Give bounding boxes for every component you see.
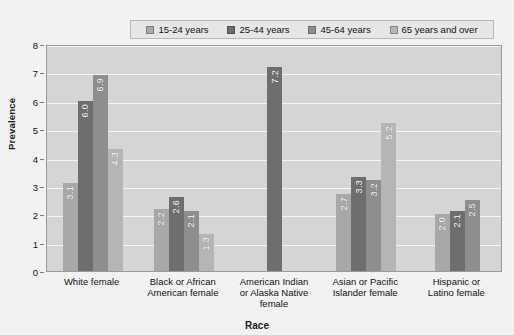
bar[interactable]: 6.0 xyxy=(78,101,93,271)
legend-swatch-icon xyxy=(308,26,316,34)
bar-value-label: 1.3 xyxy=(201,237,211,250)
bar[interactable]: 2.0 xyxy=(435,214,450,271)
bar-value-label: 2.1 xyxy=(452,214,462,227)
bar[interactable]: 3.1 xyxy=(63,183,78,271)
y-tick-mark xyxy=(40,102,44,103)
chart-legend: 15-24 years25-44 years45-64 years65 year… xyxy=(130,20,494,39)
x-category-label: Asian or PacificIslander female xyxy=(320,276,411,298)
bar[interactable]: 2.6 xyxy=(169,197,184,271)
x-axis-category-labels: White femaleBlack or AfricanAmerican fem… xyxy=(46,276,502,320)
bar[interactable]: 2.7 xyxy=(336,194,351,271)
bar[interactable]: 2.2 xyxy=(154,209,169,271)
y-tick-mark xyxy=(40,45,44,46)
x-category-label: Hispanic orLatino female xyxy=(411,276,502,298)
bar[interactable]: 3.2 xyxy=(366,180,381,271)
bar-value-label: 6.0 xyxy=(80,104,90,117)
bar-groups: 3.16.06.94.32.22.62.11.37.22.73.33.25.22… xyxy=(47,46,501,271)
bar-group: 3.16.06.94.3 xyxy=(47,46,138,271)
bar[interactable]: 2.1 xyxy=(184,211,199,271)
y-tick-label: 6 xyxy=(33,96,38,107)
y-tick-label: 1 xyxy=(33,238,38,249)
bar-value-label: 4.3 xyxy=(110,152,120,165)
y-tick-label: 4 xyxy=(33,153,38,164)
bar-value-label: 2.7 xyxy=(339,197,349,210)
x-category-label: Black or AfricanAmerican female xyxy=(137,276,228,298)
legend-item-2[interactable]: 45-64 years xyxy=(308,24,370,35)
bar-value-label: 3.1 xyxy=(65,186,75,199)
bar[interactable]: 2.5 xyxy=(465,200,480,271)
legend-item-1[interactable]: 25-44 years xyxy=(227,24,289,35)
legend-item-0[interactable]: 15-24 years xyxy=(146,24,208,35)
bar[interactable]: 1.3 xyxy=(199,234,214,271)
y-tick-label: 8 xyxy=(33,40,38,51)
bar-value-label: 6.9 xyxy=(95,78,105,91)
x-category-label: White female xyxy=(46,276,137,287)
y-tick-label: 7 xyxy=(33,68,38,79)
legend-swatch-icon xyxy=(390,26,398,34)
y-tick-label: 0 xyxy=(33,267,38,278)
bar-value-label: 3.2 xyxy=(369,183,379,196)
legend-swatch-icon xyxy=(146,26,154,34)
bar-value-label: 2.2 xyxy=(156,212,166,225)
y-tick-mark xyxy=(40,130,44,131)
bar[interactable]: 5.2 xyxy=(381,123,396,271)
bar-value-label: 3.3 xyxy=(354,180,364,193)
bar[interactable]: 6.9 xyxy=(93,75,108,271)
bar-group: 2.02.12.5 xyxy=(412,46,503,271)
bar-value-label: 7.2 xyxy=(270,70,280,83)
bar[interactable]: 2.1 xyxy=(450,211,465,271)
bar-value-label: 2.1 xyxy=(186,214,196,227)
bar-group: 7.2 xyxy=(229,46,320,271)
y-tick-mark xyxy=(40,159,44,160)
y-tick-label: 2 xyxy=(33,210,38,221)
y-tick-mark xyxy=(40,215,44,216)
legend-item-label: 65 years and over xyxy=(402,24,478,35)
bar[interactable]: 3.3 xyxy=(351,177,366,271)
bar-value-label: 2.5 xyxy=(467,203,477,216)
bar-group: 2.22.62.11.3 xyxy=(138,46,229,271)
y-tick-mark xyxy=(40,73,44,74)
legend-swatch-icon xyxy=(227,26,235,34)
prevalence-bar-chart: 15-24 years25-44 years45-64 years65 year… xyxy=(0,0,514,335)
bar-value-label: 2.0 xyxy=(437,217,447,230)
legend-item-label: 45-64 years xyxy=(320,24,370,35)
y-tick-mark xyxy=(40,272,44,273)
y-tick-label: 3 xyxy=(33,181,38,192)
bar-group: 2.73.33.25.2 xyxy=(321,46,412,271)
legend-item-label: 25-44 years xyxy=(239,24,289,35)
y-tick-label: 5 xyxy=(33,125,38,136)
bar[interactable]: 7.2 xyxy=(267,67,282,271)
legend-item-3[interactable]: 65 years and over xyxy=(390,24,478,35)
y-axis-ticks: 012345678 xyxy=(0,45,44,272)
x-category-label: American Indianor Alaska Nativefemale xyxy=(228,276,319,309)
plot-area: 3.16.06.94.32.22.62.11.37.22.73.33.25.22… xyxy=(46,45,502,272)
y-tick-mark xyxy=(40,187,44,188)
bar-value-label: 5.2 xyxy=(384,126,394,139)
y-tick-mark xyxy=(40,244,44,245)
bar-value-label: 2.6 xyxy=(171,200,181,213)
legend-item-label: 15-24 years xyxy=(158,24,208,35)
bar[interactable]: 4.3 xyxy=(108,149,123,271)
x-axis-title: Race xyxy=(0,320,514,331)
